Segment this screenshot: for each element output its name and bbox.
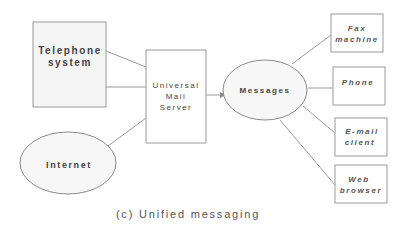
node-email-client: E-mail client	[335, 118, 387, 156]
server-label-line3: Server	[160, 103, 193, 112]
node-telephone-system: Telephone system	[33, 22, 106, 107]
diagram-caption: (c) Unified messaging	[116, 208, 260, 220]
node-fax-machine: Fax machine	[331, 14, 383, 52]
messages-label: Messages	[239, 86, 290, 95]
edge-messages-fax	[292, 35, 331, 64]
web-label-line2: browser	[340, 186, 382, 195]
email-label-line2: client	[345, 138, 376, 147]
edge-messages-web	[280, 120, 335, 185]
fax-label-line2: machine	[335, 35, 379, 44]
email-label-line1: E-mail	[345, 127, 379, 136]
phone-label: Phone	[342, 78, 374, 87]
unified-messaging-diagram: Telephone system Internet Universal Mail…	[0, 0, 406, 228]
node-internet: Internet	[20, 132, 116, 194]
telephone-label-line1: Telephone	[38, 45, 102, 56]
edge-messages-email	[303, 106, 335, 133]
edge-telephone-server-upper	[106, 51, 146, 67]
server-label-line1: Universal	[153, 81, 200, 90]
fax-label-line1: Fax	[348, 24, 367, 33]
web-label-line1: Web	[348, 175, 370, 184]
node-universal-mail-server: Universal Mail Server	[146, 50, 206, 143]
node-phone: Phone	[333, 67, 385, 105]
server-label-line2: Mail	[166, 92, 187, 101]
node-messages: Messages	[223, 60, 307, 120]
telephone-label-line2: system	[48, 57, 92, 68]
internet-label: Internet	[46, 160, 92, 170]
edge-internet-server	[108, 118, 146, 146]
node-web-browser: Web browser	[335, 165, 387, 203]
